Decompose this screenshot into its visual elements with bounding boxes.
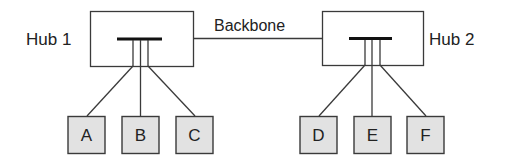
hub-2-cables xyxy=(319,65,426,116)
cable-f xyxy=(380,65,426,116)
node-e: E xyxy=(354,117,391,154)
node-a: A xyxy=(68,117,105,154)
node-c-label: C xyxy=(188,126,200,145)
cable-c xyxy=(148,66,195,116)
node-f-label: F xyxy=(420,126,430,145)
hub-2-label: Hub 2 xyxy=(429,30,474,49)
node-c: C xyxy=(176,117,213,154)
node-e-label: E xyxy=(367,126,378,145)
hub-1-label: Hub 1 xyxy=(26,30,71,49)
node-d-label: D xyxy=(312,126,324,145)
backbone-label: Backbone xyxy=(214,17,285,34)
node-b-label: B xyxy=(135,126,146,145)
hub-1-cables xyxy=(87,66,195,116)
network-diagram: Backbone Hub 1 A B C Hub 2 xyxy=(0,0,511,165)
node-d: D xyxy=(300,117,337,154)
backbone-link: Backbone xyxy=(193,17,322,39)
node-f: F xyxy=(407,117,444,154)
hub-2: Hub 2 xyxy=(323,12,475,66)
hub-1: Hub 1 xyxy=(26,12,194,67)
node-a-label: A xyxy=(81,126,93,145)
cable-d xyxy=(319,65,365,116)
node-b: B xyxy=(122,117,159,154)
cable-a xyxy=(87,66,133,116)
